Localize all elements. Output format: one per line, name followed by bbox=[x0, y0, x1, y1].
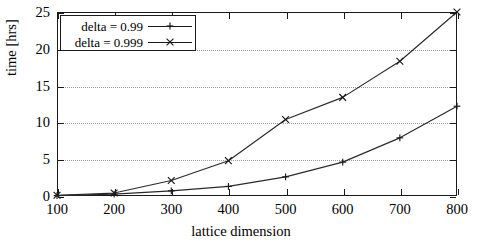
x-tick-100 bbox=[58, 13, 59, 19]
x-tick-label-800: 800 bbox=[432, 202, 482, 217]
y-tick-5 bbox=[58, 160, 64, 161]
plus-marker-icon bbox=[167, 23, 174, 30]
legend-label-0: delta = 0.99 bbox=[61, 20, 148, 33]
x-tick-label-100: 100 bbox=[32, 202, 82, 217]
y-tick-label-15: 15 bbox=[24, 79, 50, 94]
x-tick-label-600: 600 bbox=[318, 202, 368, 217]
legend-label-1: delta = 0.999 bbox=[61, 36, 148, 49]
y-tick-label-5: 5 bbox=[24, 152, 50, 167]
x-tick-600 bbox=[344, 13, 345, 19]
x-tick-label-400: 400 bbox=[203, 202, 253, 217]
y-tick-25 bbox=[450, 13, 456, 14]
x-tick-400 bbox=[229, 13, 230, 19]
x-tick-300 bbox=[172, 189, 173, 195]
y-tick-0 bbox=[58, 197, 64, 198]
gridline-y-5 bbox=[58, 160, 456, 161]
y-tick-label-25: 25 bbox=[24, 5, 50, 20]
x-axis-title: lattice dimension bbox=[0, 224, 482, 239]
y-tick-0 bbox=[450, 197, 456, 198]
x-tick-700 bbox=[401, 13, 402, 19]
x-tick-800 bbox=[458, 189, 459, 195]
x-tick-700 bbox=[401, 189, 402, 195]
y-tick-15 bbox=[450, 87, 456, 88]
x-tick-500 bbox=[287, 13, 288, 19]
y-tick-10 bbox=[58, 123, 64, 124]
y-tick-label-10: 10 bbox=[24, 115, 50, 130]
y-tick-20 bbox=[450, 50, 456, 51]
chart-legend: delta = 0.99delta = 0.999 bbox=[60, 15, 196, 51]
legend-sample-0 bbox=[148, 20, 192, 32]
x-tick-200 bbox=[115, 189, 116, 195]
x-tick-400 bbox=[229, 189, 230, 195]
x-tick-800 bbox=[458, 13, 459, 19]
x-tick-500 bbox=[287, 189, 288, 195]
x-tick-100 bbox=[58, 189, 59, 195]
y-tick-10 bbox=[450, 123, 456, 124]
x-tick-label-700: 700 bbox=[375, 202, 425, 217]
chart-figure: 0510152025 100200300400500600700800 time… bbox=[0, 0, 482, 248]
cross-marker-icon bbox=[167, 39, 174, 46]
y-tick-label-20: 20 bbox=[24, 42, 50, 57]
x-tick-600 bbox=[344, 189, 345, 195]
y-tick-15 bbox=[58, 87, 64, 88]
y-tick-5 bbox=[450, 160, 456, 161]
y-axis-title: time [hrs] bbox=[4, 58, 19, 76]
x-tick-label-200: 200 bbox=[89, 202, 139, 217]
x-tick-label-500: 500 bbox=[261, 202, 311, 217]
x-tick-label-300: 300 bbox=[146, 202, 196, 217]
gridline-y-10 bbox=[58, 123, 456, 124]
y-axis-title-text: time [hrs] bbox=[4, 58, 19, 76]
legend-sample-1 bbox=[148, 36, 192, 48]
gridline-y-15 bbox=[58, 87, 456, 88]
legend-entry-1: delta = 0.999 bbox=[61, 34, 195, 50]
legend-entry-0: delta = 0.99 bbox=[61, 18, 195, 34]
